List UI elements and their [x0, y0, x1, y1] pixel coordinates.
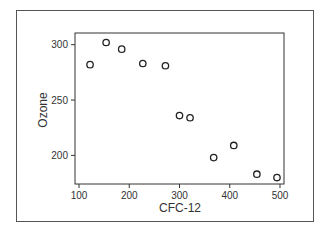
data-point-marker — [187, 115, 193, 121]
y-tick-label: 250 — [51, 95, 68, 106]
data-point-marker — [87, 61, 93, 67]
y-axis-title: Ozone — [36, 92, 50, 128]
x-tick-label: 400 — [221, 190, 238, 201]
plot-area — [75, 33, 284, 184]
data-point-marker — [119, 46, 125, 52]
x-tick-label: 100 — [71, 190, 88, 201]
data-point-marker — [231, 142, 237, 148]
scatter-plot: 100200300400500 200250300 CFC-12 Ozone — [0, 0, 330, 235]
data-point-marker — [103, 39, 109, 45]
x-axis-title: CFC-12 — [159, 201, 201, 215]
data-point-marker — [210, 154, 216, 160]
x-axis: 100200300400500 — [71, 184, 289, 201]
data-points — [87, 39, 280, 180]
x-tick-label: 500 — [272, 190, 289, 201]
y-tick-label: 300 — [51, 39, 68, 50]
x-tick-label: 300 — [171, 190, 188, 201]
data-point-marker — [176, 112, 182, 118]
y-axis: 200250300 — [51, 39, 75, 161]
data-point-marker — [140, 60, 146, 66]
x-tick-label: 200 — [121, 190, 138, 201]
data-point-marker — [162, 63, 168, 69]
data-point-marker — [254, 171, 260, 177]
data-point-marker — [274, 174, 280, 180]
y-tick-label: 200 — [51, 150, 68, 161]
